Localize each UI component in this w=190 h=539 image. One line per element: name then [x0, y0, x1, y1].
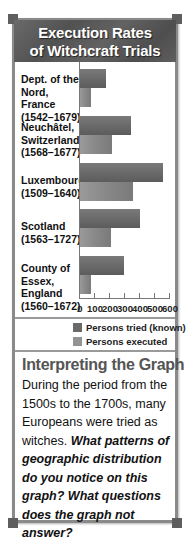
- divider: [15, 317, 175, 319]
- y-axis-line: [79, 62, 80, 298]
- x-axis-tick-label: 100: [87, 303, 103, 314]
- bar-persons-tried: [80, 69, 106, 88]
- bar-persons-executed: [80, 135, 112, 154]
- chart-title: Execution Rates of Witchcraft Trials: [14, 20, 176, 62]
- category-label-nord: Dept. of the Nord, France (1542–1679): [21, 73, 83, 123]
- category-label-neuchatel: Neuchâtel, Switzerland (1568–1677): [21, 121, 83, 159]
- x-axis-tick-label: 300: [117, 303, 133, 314]
- bar-persons-executed: [80, 228, 111, 247]
- bar-persons-tried: [80, 163, 163, 182]
- divider: [15, 350, 175, 352]
- interpreting-body: During the period from the 1500s to the …: [22, 376, 172, 539]
- interpreting-section: Interpreting the Graph During the period…: [22, 356, 172, 539]
- bar-persons-executed: [80, 275, 91, 294]
- x-axis-tick-label: 600: [162, 303, 178, 314]
- category-label-essex: County of Essex, England (1560–1672): [21, 262, 83, 312]
- interpreting-title: Interpreting the Graph: [22, 356, 172, 374]
- frame-corner: [8, 518, 18, 528]
- interpreting-question: What patterns of geographic distribution…: [22, 434, 169, 539]
- chart-title-line2: of Witchcraft Trials: [14, 42, 176, 60]
- bar-chart: Dept. of the Nord, France (1542–1679) Ne…: [15, 62, 175, 317]
- bar-persons-tried: [80, 209, 140, 228]
- legend-swatch-executed: [73, 337, 82, 346]
- bar-persons-tried: [80, 116, 131, 135]
- x-axis-tick: [154, 293, 155, 299]
- x-axis-tick: [79, 293, 80, 299]
- bar-persons-executed: [80, 88, 91, 107]
- x-axis-tick: [94, 293, 95, 299]
- bar-persons-executed: [80, 182, 133, 201]
- x-axis-tick: [109, 293, 110, 299]
- x-axis-tick-label: 0: [77, 303, 82, 314]
- category-label-scotland: Scotland (1563–1727): [21, 220, 83, 245]
- bar-persons-tried: [80, 256, 124, 275]
- x-axis-tick-label: 200: [102, 303, 118, 314]
- chart-title-line1: Execution Rates: [14, 24, 176, 42]
- x-axis-tick: [169, 293, 170, 299]
- x-axis-tick-label: 500: [147, 303, 163, 314]
- x-axis-tick: [124, 293, 125, 299]
- frame-corner: [172, 518, 182, 528]
- x-axis-tick-label: 400: [132, 303, 148, 314]
- legend-swatch-tried: [73, 323, 82, 332]
- x-axis-tick: [139, 293, 140, 299]
- category-label-luxembourg: Luxembourg (1509–1640): [21, 174, 83, 199]
